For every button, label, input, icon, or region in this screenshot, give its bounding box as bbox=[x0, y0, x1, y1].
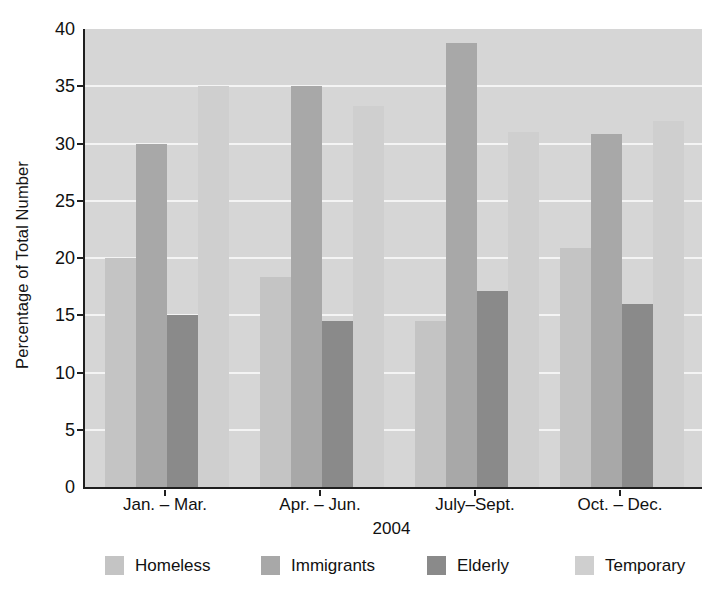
y-tick-label: 20 bbox=[5, 249, 75, 267]
bar bbox=[291, 86, 322, 487]
y-tick-label: 5 bbox=[5, 421, 75, 439]
y-tick-label: 25 bbox=[5, 192, 75, 210]
legend-swatch-icon bbox=[575, 556, 594, 575]
y-tick-label: 30 bbox=[5, 135, 75, 153]
legend: HomelessImmigrantsElderlyTemporary bbox=[83, 552, 700, 578]
bar bbox=[198, 86, 229, 487]
x-category-label: July–Sept. bbox=[395, 496, 555, 513]
y-tick-label: 0 bbox=[5, 478, 75, 496]
bar bbox=[622, 304, 653, 487]
bar bbox=[653, 121, 684, 487]
bar bbox=[446, 43, 477, 487]
x-axis-title: 2004 bbox=[83, 519, 700, 539]
plot-inner bbox=[85, 29, 702, 487]
bar bbox=[260, 277, 291, 487]
legend-label: Homeless bbox=[135, 557, 211, 574]
x-category-label: Jan. – Mar. bbox=[85, 496, 245, 513]
y-tick-label: 40 bbox=[5, 20, 75, 38]
legend-swatch-icon bbox=[427, 556, 446, 575]
bar bbox=[167, 315, 198, 487]
legend-label: Elderly bbox=[457, 557, 509, 574]
y-tick-label: 10 bbox=[5, 364, 75, 382]
bar bbox=[105, 258, 136, 487]
gridline bbox=[85, 85, 702, 87]
legend-swatch-icon bbox=[105, 556, 124, 575]
legend-label: Immigrants bbox=[291, 557, 375, 574]
plot-area bbox=[83, 29, 702, 489]
y-tick-label: 15 bbox=[5, 306, 75, 324]
chart-title-cropped bbox=[0, 0, 713, 9]
legend-item[interactable]: Elderly bbox=[427, 552, 509, 578]
legend-item[interactable]: Homeless bbox=[105, 552, 211, 578]
bar bbox=[353, 106, 384, 487]
y-tick-label: 35 bbox=[5, 77, 75, 95]
bar bbox=[136, 144, 167, 488]
bar-chart: Percentage of Total Number 0510152025303… bbox=[0, 0, 713, 591]
bar bbox=[415, 321, 446, 487]
legend-item[interactable]: Temporary bbox=[575, 552, 685, 578]
x-category-label: Oct. – Dec. bbox=[540, 496, 700, 513]
legend-label: Temporary bbox=[605, 557, 685, 574]
bar bbox=[322, 321, 353, 487]
legend-item[interactable]: Immigrants bbox=[261, 552, 375, 578]
x-category-label: Apr. – Jun. bbox=[240, 496, 400, 513]
bar bbox=[560, 248, 591, 487]
bar bbox=[591, 134, 622, 487]
bar bbox=[508, 132, 539, 487]
bar bbox=[477, 291, 508, 487]
legend-swatch-icon bbox=[261, 556, 280, 575]
